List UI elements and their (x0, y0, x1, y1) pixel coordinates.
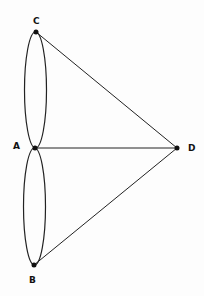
label-c: C (33, 16, 40, 26)
label-a: A (13, 141, 20, 151)
node-d (175, 146, 180, 151)
graph-diagram: C A B D (0, 0, 204, 296)
node-a (33, 146, 38, 151)
node-c (34, 30, 39, 35)
edge-c-d (36, 32, 177, 148)
edge-b-d (34, 148, 177, 265)
edge-a-b-pair (24, 148, 46, 265)
label-d: D (188, 143, 195, 153)
graph-svg: C A B D (0, 0, 204, 296)
edge-c-a-pair (25, 32, 47, 148)
label-b: B (29, 275, 36, 285)
node-b (32, 263, 37, 268)
